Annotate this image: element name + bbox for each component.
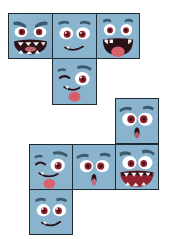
grinning-face-tile[interactable] xyxy=(115,144,159,190)
silly-tongue-face-tile[interactable] xyxy=(29,144,73,190)
smiling-face-art xyxy=(30,190,72,234)
surprised-face-tile-lower[interactable] xyxy=(72,144,116,190)
grinning-face-art xyxy=(116,145,158,189)
face-tiles-canvas xyxy=(0,0,171,239)
winking-tongue-face-tile[interactable] xyxy=(52,58,97,105)
smirking-face-art xyxy=(53,14,96,58)
angry-face-tile[interactable] xyxy=(8,13,53,59)
laughing-face-art xyxy=(97,14,139,58)
surprised-face-art-upper xyxy=(116,99,158,143)
surprised-face-tile-upper[interactable] xyxy=(115,98,159,144)
silly-tongue-face-art xyxy=(30,145,72,189)
smiling-face-tile[interactable] xyxy=(29,189,73,235)
smirking-face-tile[interactable] xyxy=(52,13,97,59)
winking-tongue-face-art xyxy=(53,59,96,104)
angry-face-art xyxy=(9,14,52,58)
surprised-face-art-lower xyxy=(73,145,115,189)
laughing-face-tile[interactable] xyxy=(96,13,140,59)
